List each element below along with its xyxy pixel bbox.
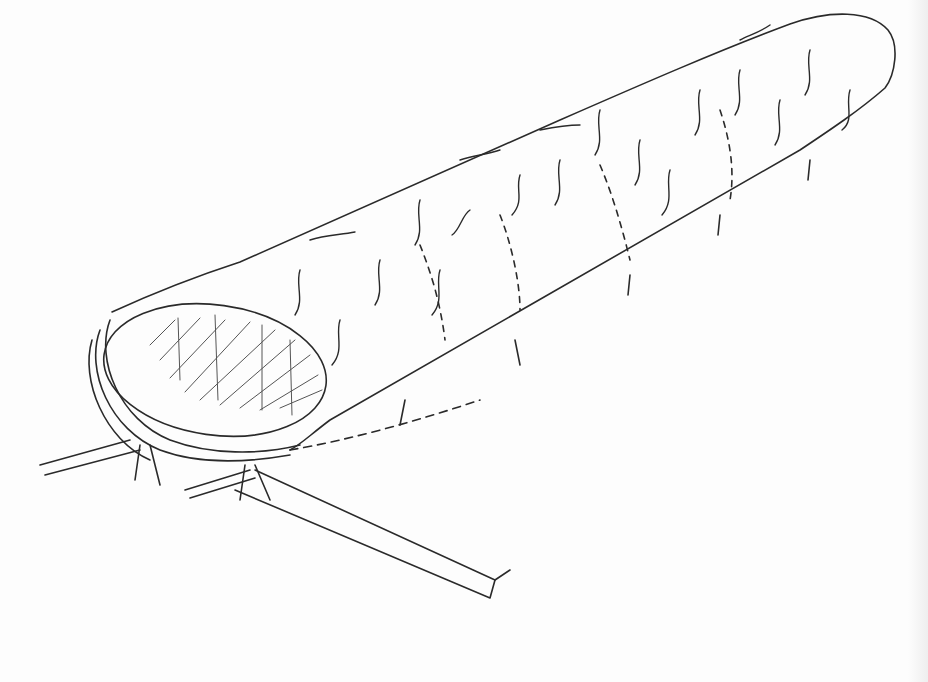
sketch-canvas: hand-drawn sketch of a long cylindrical … (0, 0, 928, 682)
oval-opening (89, 290, 335, 461)
leaf-marks (295, 25, 850, 365)
tunnel-sketch (0, 0, 928, 682)
cylinder-body (112, 14, 895, 450)
